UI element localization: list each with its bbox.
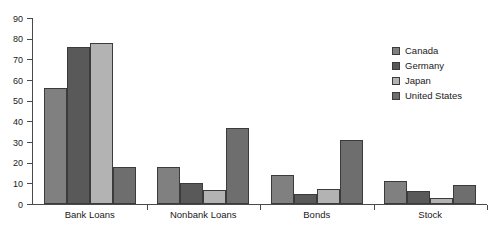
x-axis-tick <box>487 205 488 210</box>
bar <box>430 198 453 204</box>
bar <box>317 189 340 205</box>
legend-swatch-icon <box>392 62 400 70</box>
y-axis-tick-label: 70 <box>13 55 23 64</box>
bar-group <box>44 18 136 204</box>
y-axis-tick: 60 <box>27 80 32 81</box>
bar-chart: 9080706050403020100 Bank LoansNonbank Lo… <box>0 0 494 241</box>
y-axis-tick-label: 0 <box>18 200 23 209</box>
legend-swatch-icon <box>392 92 400 100</box>
y-axis-tick: 10 <box>27 183 32 184</box>
y-axis-tick: 50 <box>27 101 32 102</box>
bar <box>340 140 363 204</box>
bar-group <box>271 18 363 204</box>
y-axis-tick-label: 80 <box>13 35 23 44</box>
y-axis-tick-label: 50 <box>13 97 23 106</box>
y-axis-tick-label: 90 <box>13 14 23 23</box>
bar <box>90 43 113 204</box>
bar <box>113 167 136 204</box>
legend-label: Germany <box>405 61 444 71</box>
y-axis-tick: 80 <box>27 39 32 40</box>
legend: CanadaGermanyJapanUnited States <box>392 44 462 104</box>
x-axis-category-label: Bank Loans <box>33 210 147 220</box>
y-axis-tick-label: 10 <box>13 179 23 188</box>
legend-swatch-icon <box>392 47 400 55</box>
legend-item: Canada <box>392 44 462 57</box>
bar-group <box>157 18 249 204</box>
bar <box>294 194 317 204</box>
y-axis-tick-label: 30 <box>13 138 23 147</box>
legend-label: Japan <box>405 76 431 86</box>
x-axis-category-label: Stock <box>374 210 488 220</box>
bar <box>180 183 203 204</box>
y-axis-tick: 30 <box>27 142 32 143</box>
y-axis-tick-label: 20 <box>13 159 23 168</box>
x-axis-category-label: Bonds <box>260 210 374 220</box>
bar <box>271 175 294 204</box>
bar <box>157 167 180 204</box>
legend-label: Canada <box>405 46 438 56</box>
y-axis-tick: 40 <box>27 121 32 122</box>
bar <box>453 185 476 204</box>
legend-item: Japan <box>392 74 462 87</box>
bar <box>203 190 226 204</box>
legend-swatch-icon <box>392 77 400 85</box>
bar <box>44 88 67 204</box>
y-axis-tick-label: 60 <box>13 76 23 85</box>
bar <box>67 47 90 204</box>
y-axis-tick: 0 <box>27 204 32 205</box>
y-axis-tick: 70 <box>27 59 32 60</box>
y-axis-tick-label: 40 <box>13 117 23 126</box>
x-axis-category-label: Nonbank Loans <box>147 210 261 220</box>
bar <box>226 128 249 204</box>
bar <box>384 181 407 204</box>
bar <box>407 191 430 204</box>
legend-item: Germany <box>392 59 462 72</box>
legend-label: United States <box>405 91 462 101</box>
y-axis-tick: 20 <box>27 163 32 164</box>
y-axis-tick: 90 <box>27 18 32 19</box>
legend-item: United States <box>392 89 462 102</box>
